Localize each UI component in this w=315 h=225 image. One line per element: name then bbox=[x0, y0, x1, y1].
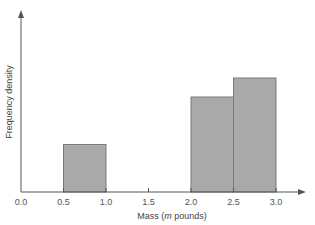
y-axis-label: Frequency density bbox=[4, 65, 14, 139]
x-tick-label: 2.5 bbox=[227, 197, 240, 207]
x-tick-label: 1.5 bbox=[142, 197, 155, 207]
x-axis-label: Mass (m pounds) bbox=[137, 211, 207, 221]
histogram-bar bbox=[234, 78, 277, 192]
histogram-bar bbox=[64, 145, 107, 193]
x-tick-label: 1.0 bbox=[100, 197, 113, 207]
x-tick-label: 0.0 bbox=[15, 197, 28, 207]
histogram-bar bbox=[191, 97, 234, 192]
x-tick-label: 0.5 bbox=[57, 197, 70, 207]
histogram-chart: 0.00.51.01.52.02.53.0 Frequency density … bbox=[0, 0, 315, 225]
x-axis-arrow-icon bbox=[298, 189, 306, 195]
histogram-bars bbox=[64, 78, 277, 192]
y-axis-arrow-icon bbox=[18, 10, 24, 18]
x-tick-label: 2.0 bbox=[185, 197, 198, 207]
x-tick-label: 3.0 bbox=[270, 197, 283, 207]
